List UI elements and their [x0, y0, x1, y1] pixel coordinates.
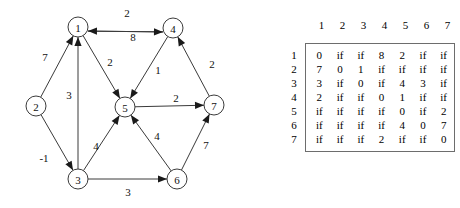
edge-weight-3-5: 4	[93, 140, 99, 152]
matrix-row-header-5: 5	[287, 104, 301, 118]
matrix-cell-3-7: if	[433, 76, 454, 90]
graph-panel: 28732122-14437 1234567	[0, 0, 250, 208]
edge-weight-1-5: 2	[107, 56, 113, 68]
matrix-cell-2-5: if	[392, 62, 413, 76]
edge-6-to-5	[131, 115, 171, 171]
arrowhead-6-to-7	[202, 114, 209, 124]
matrix-cell-6-2: if	[330, 118, 351, 132]
matrix-cell-7-1: if	[309, 132, 330, 146]
node-label-6: 6	[174, 174, 180, 186]
matrix-row: 3if0if43if	[309, 76, 454, 90]
matrix-cell-4-7: if	[433, 90, 454, 104]
arrowhead-1-to-5	[112, 89, 120, 99]
matrix-row: 2ifif01ifif	[309, 90, 454, 104]
matrix-row: ififif2ifif0	[309, 132, 454, 146]
edge-weight-3-1: 3	[66, 89, 72, 101]
edge-weight-4-1: 2	[124, 7, 130, 19]
edge-weight-6-5: 4	[154, 130, 160, 142]
matrix-cell-7-2: if	[330, 132, 351, 146]
matrix-cell-6-3: if	[350, 118, 371, 132]
matrix-cell-3-1: 3	[309, 76, 330, 90]
matrix-column-headers: 1234567	[311, 18, 460, 32]
matrix-row: 0ifif82ifif	[309, 48, 454, 62]
arrowhead-3-to-1	[74, 37, 81, 46]
arrowhead-1-to-4	[154, 28, 163, 35]
matrix-cell-4-3: if	[350, 90, 371, 104]
matrix-cell-6-1: if	[309, 118, 330, 132]
arrowhead-4-to-1	[88, 28, 97, 35]
edge-weight-5-7: 2	[173, 92, 179, 104]
matrix-cell-7-6: if	[413, 132, 434, 146]
arrowhead-2-to-1	[66, 36, 73, 46]
matrix-cell-2-4: if	[371, 62, 392, 76]
arrowhead-3-to-6	[158, 175, 167, 182]
node-label-3: 3	[75, 174, 81, 186]
node-label-5: 5	[122, 102, 128, 114]
arrowhead-5-to-7	[195, 102, 204, 109]
matrix-cell-1-4: 8	[371, 48, 392, 62]
arrowhead-2-to-3	[65, 161, 73, 171]
matrix-col-header-6: 6	[416, 18, 437, 32]
matrix-cell-5-5: 0	[392, 104, 413, 118]
matrix-cell-5-1: if	[309, 104, 330, 118]
edge-weight-2-1: 7	[42, 51, 48, 63]
matrix-cell-5-6: if	[413, 104, 434, 118]
matrix-grid: 0ifif82ifif701ifififif3if0if43if2ifif01i…	[305, 43, 455, 152]
matrix-cell-2-1: 7	[309, 62, 330, 76]
matrix-cell-5-7: 2	[433, 104, 454, 118]
matrix-col-header-1: 1	[311, 18, 332, 32]
matrix-cell-5-3: if	[350, 104, 371, 118]
matrix-row-header-3: 3	[287, 76, 301, 90]
matrix-cell-3-4: if	[371, 76, 392, 90]
matrix-cell-1-6: if	[413, 48, 434, 62]
matrix-cell-7-4: 2	[371, 132, 392, 146]
matrix-col-header-2: 2	[332, 18, 353, 32]
matrix-cell-5-4: if	[371, 104, 392, 118]
matrix-cell-7-3: if	[350, 132, 371, 146]
matrix-cell-3-6: 3	[413, 76, 434, 90]
matrix-cell-1-5: 2	[392, 48, 413, 62]
matrix-cell-1-7: if	[433, 48, 454, 62]
matrix-row-header-6: 6	[287, 118, 301, 132]
matrix-cell-3-5: 4	[392, 76, 413, 90]
matrix-cell-2-3: 1	[350, 62, 371, 76]
edge-weight-1-4: 8	[130, 31, 136, 43]
adjacency-matrix-panel: 1234567 1234567 0ifif82ifif701ifififif3i…	[285, 18, 460, 178]
edge-1-to-4	[88, 31, 163, 32]
matrix-cell-7-7: 0	[433, 132, 454, 146]
matrix-cell-2-7: if	[433, 62, 454, 76]
figure-root: 28732122-14437 1234567 1234567 1234567 0…	[0, 0, 460, 208]
matrix-col-header-7: 7	[437, 18, 458, 32]
matrix-cell-7-5: if	[392, 132, 413, 146]
node-label-7: 7	[211, 100, 217, 112]
matrix-row-header-2: 2	[287, 62, 301, 76]
arrowhead-7-to-4	[178, 37, 185, 47]
arrowhead-6-to-5	[131, 115, 139, 124]
matrix-row-headers: 1234567	[287, 48, 301, 146]
matrix-cell-3-2: if	[330, 76, 351, 90]
edge-1-to-5	[83, 36, 120, 99]
matrix-cell-4-6: if	[413, 90, 434, 104]
edge-weight-4-5: 1	[155, 64, 161, 76]
node-label-2: 2	[33, 101, 39, 113]
edge-weight-2-3: -1	[39, 152, 48, 164]
edge-weight-7-4: 2	[209, 58, 215, 70]
arrowhead-3-to-5	[112, 115, 120, 125]
matrix-col-header-5: 5	[395, 18, 416, 32]
matrix-cell-3-3: 0	[350, 76, 371, 90]
matrix-row-header-7: 7	[287, 132, 301, 146]
matrix-cell-4-2: if	[330, 90, 351, 104]
matrix-row: 701ifififif	[309, 62, 454, 76]
edge-3-to-5	[83, 115, 119, 170]
matrix-row-header-4: 4	[287, 90, 301, 104]
graph-canvas: 28732122-14437 1234567	[0, 0, 250, 208]
matrix-cell-2-2: 0	[330, 62, 351, 76]
arrowhead-4-to-5	[130, 89, 138, 99]
matrix-row-header-1: 1	[287, 48, 301, 62]
matrix-col-header-4: 4	[374, 18, 395, 32]
matrix-cell-6-5: 4	[392, 118, 413, 132]
matrix-cell-6-7: 7	[433, 118, 454, 132]
matrix-cell-1-3: if	[350, 48, 371, 62]
matrix-cell-4-1: 2	[309, 90, 330, 104]
matrix-row: ifififif407	[309, 118, 454, 132]
